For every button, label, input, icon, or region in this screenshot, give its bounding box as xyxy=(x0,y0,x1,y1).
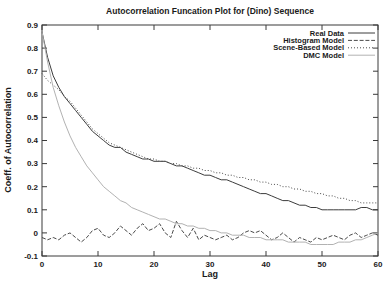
series-line-scene-based-model xyxy=(42,74,378,203)
chart-title: Autocorrelation Funcation Plot for (Dino… xyxy=(106,6,314,16)
y-tick-label: 0.1 xyxy=(27,206,39,215)
plot-dynamic-layer: -0.100.10.20.30.40.50.60.70.80.901020304… xyxy=(24,21,383,269)
series-line-dmc-model xyxy=(42,32,378,245)
y-axis-label: Coeff. of Autocorrelation xyxy=(3,87,13,193)
x-tick-label: 10 xyxy=(94,260,103,269)
x-tick-label: 0 xyxy=(40,260,45,269)
series-line-histogram-model xyxy=(42,221,378,242)
y-tick-label: 0 xyxy=(34,229,39,238)
plot-svg: Autocorrelation Funcation Plot for (Dino… xyxy=(0,0,388,289)
x-tick-label: 20 xyxy=(150,260,159,269)
y-tick-label: 0.5 xyxy=(27,113,39,122)
legend-label: DMC Model xyxy=(303,51,344,60)
y-tick-label: 0.9 xyxy=(27,21,39,30)
y-tick-label: 0.7 xyxy=(27,67,39,76)
x-tick-label: 60 xyxy=(374,260,383,269)
y-tick-label: 0.6 xyxy=(27,90,39,99)
chart-area: Autocorrelation Funcation Plot for (Dino… xyxy=(0,0,388,289)
y-tick-label: 0.8 xyxy=(27,44,39,53)
y-tick-label: 0.4 xyxy=(27,136,39,145)
x-tick-label: 30 xyxy=(206,260,215,269)
y-tick-label: -0.1 xyxy=(24,252,38,261)
x-tick-label: 50 xyxy=(318,260,327,269)
x-axis-label: Lag xyxy=(202,269,218,279)
x-tick-label: 40 xyxy=(262,260,271,269)
y-tick-label: 0.2 xyxy=(27,183,39,192)
y-tick-label: 0.3 xyxy=(27,159,39,168)
